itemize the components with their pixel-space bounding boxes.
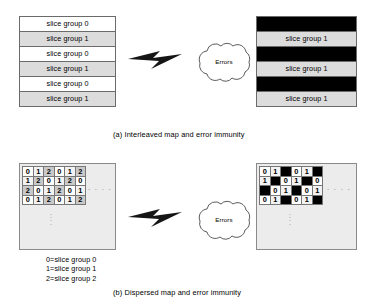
dispersed-source-cell: 2 bbox=[65, 177, 75, 186]
dispersed-received-cell: 2 bbox=[271, 177, 281, 186]
dispersed-source-cell: 1 bbox=[34, 196, 44, 205]
dispersed-received-cell-value: 0 bbox=[263, 168, 267, 175]
dispersed-source-cell-value: 2 bbox=[57, 187, 61, 194]
dispersed-source-cell-value: 0 bbox=[47, 177, 51, 184]
error-cloud-a bbox=[193, 38, 255, 86]
dispersed-received-cell: 0 bbox=[292, 167, 302, 176]
dispersed-source-cell-value: 2 bbox=[47, 168, 51, 175]
dispersed-source-cell: 0 bbox=[76, 177, 86, 186]
dispersed-received-panel: 012012120120201201012012 . . . . .... bbox=[256, 163, 357, 250]
interleaved-source-row: slice group 0 bbox=[20, 47, 115, 62]
dispersed-source-cell-value: 0 bbox=[36, 187, 40, 194]
dispersed-source-cell-value: 2 bbox=[78, 196, 82, 203]
dispersed-received-cell: 1 bbox=[313, 186, 323, 195]
interleaved-source-row: slice group 1 bbox=[20, 92, 115, 106]
dispersed-received-cell: 1 bbox=[271, 167, 281, 176]
dispersed-source-cell-value: 2 bbox=[47, 196, 51, 203]
dispersed-source-cell: 0 bbox=[34, 186, 44, 195]
interleaved-received-row-label: slice group 1 bbox=[285, 95, 327, 102]
dispersed-received-cell-value: 1 bbox=[284, 187, 288, 194]
dispersed-received-cell: 2 bbox=[292, 186, 302, 195]
dispersed-source-cell-value: 1 bbox=[26, 177, 30, 184]
dispersed-source-cell-value: 0 bbox=[57, 196, 61, 203]
dispersed-received-grid: 012012120120201201012012 bbox=[259, 166, 323, 205]
dispersed-source-cell-value: 1 bbox=[36, 168, 40, 175]
dispersed-source-cell-value: 1 bbox=[68, 168, 72, 175]
interleaved-source-row: slice group 1 bbox=[20, 32, 115, 47]
dispersed-received-cell-value: 1 bbox=[305, 196, 309, 203]
dispersed-source-cell-value: 2 bbox=[26, 187, 30, 194]
dispersed-source-cell: 2 bbox=[44, 196, 54, 205]
legend-item-2: 2=slice group 2 bbox=[46, 274, 96, 283]
dispersed-source-cell-value: 2 bbox=[68, 177, 72, 184]
dispersed-source-panel: 012012120120201201012012 . . . . .... bbox=[19, 163, 116, 250]
dispersed-source-cell-value: 1 bbox=[57, 177, 61, 184]
received-grid-ellipsis-vertical: .... bbox=[287, 211, 293, 224]
interleaved-received-row-label: slice group 1 bbox=[285, 35, 327, 42]
dispersed-received-cell: 1 bbox=[281, 186, 291, 195]
dispersed-source-cell-value: 1 bbox=[36, 196, 40, 203]
legend-item-0: 0=slice group 0 bbox=[46, 255, 96, 264]
dispersed-received-cell-value: 0 bbox=[305, 187, 309, 194]
dispersed-source-cell-value: 1 bbox=[47, 187, 51, 194]
dispersed-received-cell: 0 bbox=[260, 167, 270, 176]
interleaved-source-row-label: slice group 1 bbox=[46, 35, 88, 42]
dispersed-source-cell: 2 bbox=[23, 186, 33, 195]
dispersed-received-cell: 0 bbox=[281, 177, 291, 186]
dispersed-source-cell-value: 0 bbox=[68, 187, 72, 194]
received-grid-ellipsis-horizontal: . . . . bbox=[327, 184, 351, 192]
interleaved-received-row: slice group 1 bbox=[257, 92, 356, 106]
figure-slice-group-maps: slice group 0slice group 1slice group 0s… bbox=[0, 0, 376, 305]
dispersed-source-cell: 2 bbox=[76, 167, 86, 176]
dispersed-source-cell: 1 bbox=[44, 186, 54, 195]
dispersed-received-cell: 2 bbox=[281, 167, 291, 176]
lightning-bolt-icon-b bbox=[127, 205, 185, 231]
dispersed-received-cell: 1 bbox=[260, 177, 270, 186]
dispersed-received-cell: 2 bbox=[313, 196, 323, 205]
dispersed-source-cell-value: 0 bbox=[78, 177, 82, 184]
source-grid-ellipsis-vertical: .... bbox=[48, 211, 54, 224]
interleaved-received-row-label: slice group 1 bbox=[285, 65, 327, 72]
dispersed-received-cell-value: 1 bbox=[273, 196, 277, 203]
interleaved-source-stack: slice group 0slice group 1slice group 0s… bbox=[19, 16, 116, 107]
interleaved-source-row-label: slice group 1 bbox=[46, 95, 88, 102]
dispersed-received-cell: 2 bbox=[260, 186, 270, 195]
dispersed-received-cell-value: 0 bbox=[315, 177, 319, 184]
dispersed-received-cell-value: 1 bbox=[294, 177, 298, 184]
dispersed-source-cell: 1 bbox=[65, 167, 75, 176]
interleaved-received-row: slice group 1 bbox=[257, 32, 356, 47]
dispersed-received-cell-value: 0 bbox=[284, 177, 288, 184]
dispersed-received-cell: 0 bbox=[260, 196, 270, 205]
dispersed-received-cell: 1 bbox=[292, 177, 302, 186]
dispersed-source-cell: 1 bbox=[34, 167, 44, 176]
interleaved-received-row: slice group 1 bbox=[257, 62, 356, 77]
dispersed-received-cell: 0 bbox=[271, 186, 281, 195]
dispersed-received-cell: 2 bbox=[281, 196, 291, 205]
dispersed-source-cell: 0 bbox=[65, 186, 75, 195]
dispersed-received-cell-value: 0 bbox=[294, 196, 298, 203]
dispersed-source-cell: 0 bbox=[23, 196, 33, 205]
dispersed-source-cell-value: 1 bbox=[78, 187, 82, 194]
dispersed-received-cell-value: 0 bbox=[273, 187, 277, 194]
interleaved-source-row: slice group 0 bbox=[20, 17, 115, 32]
dispersed-received-cell: 0 bbox=[313, 177, 323, 186]
source-grid-ellipsis-horizontal: . . . . bbox=[88, 184, 112, 192]
dispersed-source-cell-value: 2 bbox=[78, 168, 82, 175]
dispersed-source-cell: 1 bbox=[55, 177, 65, 186]
dispersed-legend: 0=slice group 0 1=slice group 1 2=slice … bbox=[46, 255, 96, 283]
dispersed-source-cell-value: 0 bbox=[26, 168, 30, 175]
dispersed-source-cell: 0 bbox=[23, 167, 33, 176]
dispersed-received-cell-value: 1 bbox=[315, 187, 319, 194]
lightning-bolt-icon-a bbox=[127, 47, 185, 73]
dispersed-received-cell-value: 1 bbox=[263, 177, 267, 184]
dispersed-source-cell: 2 bbox=[44, 167, 54, 176]
dispersed-source-cell-value: 0 bbox=[26, 196, 30, 203]
dispersed-source-cell-value: 2 bbox=[36, 177, 40, 184]
interleaved-source-row-label: slice group 0 bbox=[46, 80, 88, 87]
dispersed-received-cell-value: 0 bbox=[294, 168, 298, 175]
dispersed-received-cell: 0 bbox=[292, 196, 302, 205]
dispersed-source-cell: 2 bbox=[34, 177, 44, 186]
dispersed-received-cell: 1 bbox=[302, 196, 312, 205]
interleaved-source-row-label: slice group 0 bbox=[46, 20, 88, 27]
dispersed-received-cell: 0 bbox=[302, 186, 312, 195]
